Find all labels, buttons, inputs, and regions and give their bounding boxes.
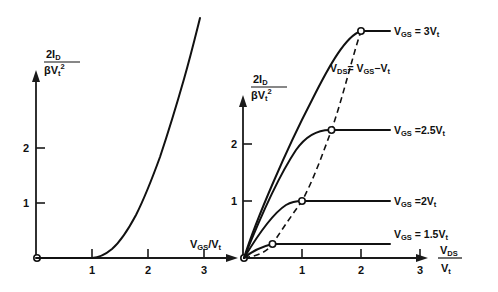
label15-value-sub: t xyxy=(445,233,448,242)
svg-text:βVt2: βVt2 xyxy=(44,62,65,78)
left-y-label-denominator-sup: 2 xyxy=(61,62,65,71)
label15-value: = 1.5V xyxy=(412,228,446,240)
locus-label-lhs-sub: DS xyxy=(337,67,347,76)
label2-value-sub: t xyxy=(434,200,437,209)
right-y-tick-label-1: 1 xyxy=(231,195,237,207)
label25-value-sub: t xyxy=(443,129,446,138)
saturation-locus-label: VDS= VGS−Vt xyxy=(330,62,390,76)
locus-label-minus: −V xyxy=(374,62,387,74)
label25-sub: GS xyxy=(401,129,412,138)
left-y-axis xyxy=(32,70,40,258)
svg-text:VDS: VDS xyxy=(440,244,458,258)
label25-value: =2.5V xyxy=(412,124,443,136)
figure-root: 1 2 1 2 3 2ID βVt2 VGS/Vt xyxy=(0,0,498,292)
curve-label-vgs-2vt: VGS =2Vt xyxy=(394,195,437,209)
saturation-marker-1p5vt xyxy=(269,241,275,247)
left-x-tick-label-2: 2 xyxy=(145,264,151,276)
left-x-label-main-sub: GS xyxy=(197,243,208,252)
right-x-tick-label-3: 3 xyxy=(417,264,423,276)
label3-value-sub: t xyxy=(437,30,440,39)
curve-label-vgs-2p5vt: VGS =2.5Vt xyxy=(394,124,446,138)
label25-prefix: V xyxy=(394,124,401,136)
label15-prefix: V xyxy=(394,228,401,240)
right-y-label-numerator-sub: D xyxy=(262,78,268,87)
svg-text:VGS =2.5Vt: VGS =2.5Vt xyxy=(394,124,446,138)
right-x-axis-label: VDS Vt xyxy=(438,244,462,276)
saturation-locus-dashed xyxy=(244,31,361,258)
left-y-ticks xyxy=(36,148,45,203)
svg-text:βVt2: βVt2 xyxy=(251,87,272,103)
right-x-tick-label-2: 2 xyxy=(358,264,364,276)
left-panel-transfer-characteristic: 1 2 1 2 3 2ID βVt2 VGS/Vt xyxy=(23,18,238,276)
left-x-tick-label-1: 1 xyxy=(89,264,95,276)
svg-text:Vt: Vt xyxy=(441,262,451,276)
right-x-ticks xyxy=(302,249,420,258)
locus-label-eq-sub: GS xyxy=(364,67,375,76)
label2-prefix: V xyxy=(394,195,401,207)
left-x-label-slash-sub: t xyxy=(219,243,222,252)
right-panel-output-characteristics: 1 2 1 2 3 2ID βVt2 VDS Vt xyxy=(231,25,462,276)
saturation-marker-2vt xyxy=(299,198,305,204)
right-x-label-numerator-sub: DS xyxy=(447,249,457,258)
locus-label-eq: = V xyxy=(347,62,363,74)
svg-text:VGS = 3Vt: VGS = 3Vt xyxy=(394,25,440,39)
right-y-label-denominator: βV xyxy=(251,89,266,101)
right-x-label-denominator-sub: t xyxy=(448,267,451,276)
svg-text:VDS= VGS−Vt: VDS= VGS−Vt xyxy=(330,62,390,76)
curve-vgs-2p5vt xyxy=(244,130,390,258)
label3-value: = 3V xyxy=(412,25,437,37)
left-x-label-slash: /V xyxy=(208,238,219,250)
right-y-axis-label: 2ID βVt2 xyxy=(251,73,287,103)
left-y-tick-label-1: 1 xyxy=(23,197,29,209)
right-x-tick-label-1: 1 xyxy=(299,264,305,276)
left-x-tick-label-3: 3 xyxy=(201,264,207,276)
svg-text:VGS = 1.5Vt: VGS = 1.5Vt xyxy=(394,228,448,242)
locus-label-lhs: V xyxy=(330,62,337,74)
left-y-label-numerator: 2I xyxy=(46,48,55,60)
right-x-axis xyxy=(243,254,428,262)
svg-text:VGS =2Vt: VGS =2Vt xyxy=(394,195,437,209)
svg-text:2ID: 2ID xyxy=(253,73,268,87)
saturation-marker-2p5vt xyxy=(328,127,334,133)
left-y-axis-label: 2ID βVt2 xyxy=(44,48,80,78)
curve-label-vgs-3vt: VGS = 3Vt xyxy=(394,25,440,39)
left-y-tick-label-2: 2 xyxy=(23,142,29,154)
label2-value: =2V xyxy=(412,195,434,207)
svg-text:VGS/Vt: VGS/Vt xyxy=(190,238,222,252)
locus-label-minus-sub: t xyxy=(387,67,390,76)
saturation-marker-3vt xyxy=(358,28,364,34)
right-y-label-denominator-sup: 2 xyxy=(268,87,272,96)
mosfet-characteristics-figure: 1 2 1 2 3 2ID βVt2 VGS/Vt xyxy=(0,0,498,292)
left-y-label-numerator-sub: D xyxy=(55,53,61,62)
left-x-axis-label: VGS/Vt xyxy=(190,238,222,252)
label3-prefix: V xyxy=(394,25,401,37)
right-y-axis xyxy=(239,95,247,258)
svg-text:2ID: 2ID xyxy=(46,48,61,62)
curve-label-vgs-1p5vt: VGS = 1.5Vt xyxy=(394,228,448,242)
right-y-label-numerator: 2I xyxy=(253,73,262,85)
label2-sub: GS xyxy=(401,200,412,209)
right-y-tick-label-2: 2 xyxy=(231,138,237,150)
label15-sub: GS xyxy=(401,233,412,242)
left-y-label-denominator: βV xyxy=(44,64,59,76)
label3-sub: GS xyxy=(401,30,412,39)
curve-vgs-2vt xyxy=(244,201,390,258)
right-y-ticks xyxy=(243,144,252,201)
